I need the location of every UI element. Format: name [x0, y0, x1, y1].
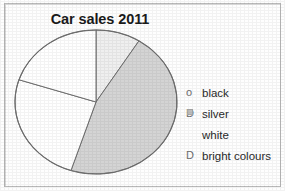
chart-title: Car sales 2011 — [0, 11, 200, 27]
legend-item-black: o black — [186, 82, 282, 103]
legend-label-silver: silver — [202, 108, 229, 120]
pie-chart-svg — [13, 28, 179, 178]
legend-item-bright-colours: D bright colours — [186, 145, 282, 166]
legend-label-black: black — [202, 87, 229, 99]
screenshot-root: Car sales 2011 o black D silver white D … — [0, 0, 285, 191]
pie-slice-group — [15, 30, 177, 174]
legend-marker-bright-colours-icon: D — [186, 150, 198, 161]
legend-marker-black-icon: o — [186, 87, 198, 98]
legend-marker-silver-icon: D — [186, 108, 198, 119]
legend-item-white: white — [186, 124, 282, 145]
chart-legend: o black D silver white D bright colours — [186, 82, 282, 166]
legend-item-silver: D silver — [186, 103, 282, 124]
legend-label-white: white — [202, 129, 229, 141]
legend-label-bright-colours: bright colours — [202, 150, 271, 162]
pie-chart — [13, 28, 179, 178]
